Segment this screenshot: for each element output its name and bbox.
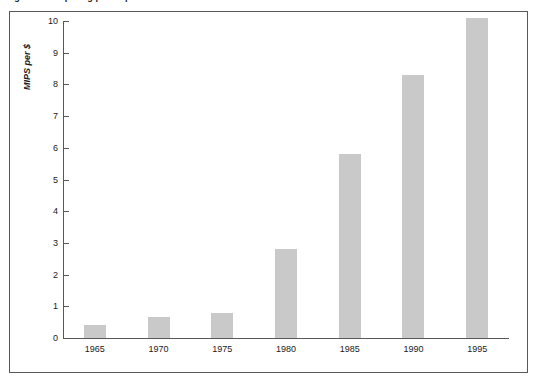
y-tick-mark bbox=[63, 116, 69, 117]
chart-frame: MIPS per $ 012345678910 1965197019751980… bbox=[9, 11, 528, 373]
y-tick-mark bbox=[63, 21, 69, 22]
y-tick-label: 3 bbox=[34, 239, 58, 248]
figure-caption-strip: Figure 1 Computing power per dollar bbox=[0, 0, 538, 11]
bar bbox=[148, 317, 170, 338]
y-tick-label: 1 bbox=[34, 302, 58, 311]
bar bbox=[339, 154, 361, 338]
y-tick-mark bbox=[63, 306, 69, 307]
y-tick-mark bbox=[63, 338, 69, 339]
y-tick-label: 8 bbox=[34, 80, 58, 89]
y-axis-label: MIPS per $ bbox=[22, 22, 32, 112]
figure-caption: Figure 1 Computing power per dollar bbox=[6, 0, 167, 2]
y-tick-mark bbox=[63, 275, 69, 276]
y-tick-label: 2 bbox=[34, 271, 58, 280]
y-tick-label: 7 bbox=[34, 112, 58, 121]
x-tick-label: 1975 bbox=[192, 345, 252, 354]
x-tick-label: 1985 bbox=[320, 345, 380, 354]
x-tick-label: 1980 bbox=[256, 345, 316, 354]
y-tick-mark bbox=[63, 53, 69, 54]
y-tick-label: 9 bbox=[34, 49, 58, 58]
bar bbox=[84, 325, 106, 338]
y-tick-label: 5 bbox=[34, 176, 58, 185]
x-axis-line bbox=[63, 338, 509, 339]
y-tick-label: 0 bbox=[34, 334, 58, 343]
x-tick-label: 1995 bbox=[447, 345, 507, 354]
x-tick-label: 1970 bbox=[129, 345, 189, 354]
x-tick-label: 1990 bbox=[383, 345, 443, 354]
y-tick-label: 4 bbox=[34, 207, 58, 216]
y-tick-mark bbox=[63, 243, 69, 244]
y-tick-label: 6 bbox=[34, 144, 58, 153]
y-tick-mark bbox=[63, 180, 69, 181]
bar bbox=[275, 249, 297, 338]
x-tick-label: 1965 bbox=[65, 345, 125, 354]
y-tick-label: 10 bbox=[34, 17, 58, 26]
bar bbox=[211, 313, 233, 338]
bar bbox=[466, 18, 488, 338]
y-tick-mark bbox=[63, 148, 69, 149]
bar-chart-plot: MIPS per $ 012345678910 1965197019751980… bbox=[10, 12, 527, 372]
y-tick-mark bbox=[63, 211, 69, 212]
y-tick-mark bbox=[63, 84, 69, 85]
bar bbox=[402, 75, 424, 338]
